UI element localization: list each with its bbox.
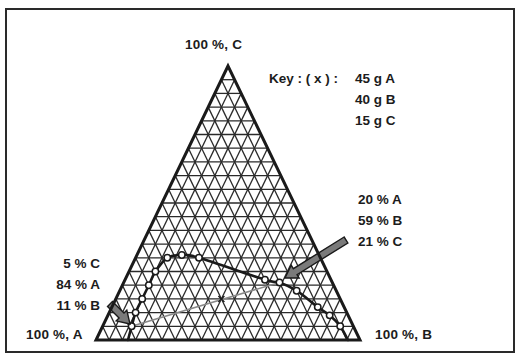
right-annotation-line: 21 % C (358, 231, 402, 252)
right-point-annotation: 20 % A 59 % B 21 % C (358, 189, 402, 252)
left-annotation-line: 84 % A (48, 274, 100, 295)
key-line-c: 15 g C (355, 110, 396, 131)
vertex-label-c: 100 %, C (185, 37, 242, 52)
vertex-label-a: 100 %, A (26, 327, 83, 342)
key-line-b: 40 g B (355, 89, 396, 110)
key-line-a: 45 g A (355, 68, 395, 89)
left-point-annotation: 5 % C 84 % A 11 % B (48, 253, 100, 316)
left-annotation-line: 5 % C (48, 253, 100, 274)
key-legend: Key : ( x ) :45 g A 40 g B 15 g C (269, 68, 396, 131)
right-annotation-line: 59 % B (358, 210, 402, 231)
right-annotation-line: 20 % A (358, 189, 402, 210)
vertex-label-b: 100 %, B (375, 327, 432, 342)
left-annotation-line: 11 % B (48, 295, 100, 316)
key-prefix: Key : ( x ) : (269, 68, 355, 89)
